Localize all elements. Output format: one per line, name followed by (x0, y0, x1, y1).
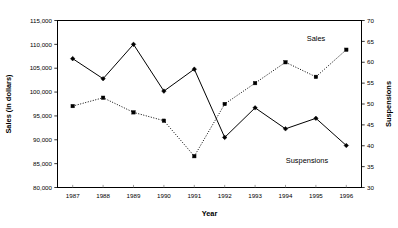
data-point (193, 154, 197, 158)
y-axis-tick-label: 80,000 (33, 184, 52, 191)
x-axis-tick-label: 1991 (187, 192, 201, 199)
data-point (132, 111, 136, 115)
y-axis-title: Sales (in dollars) (4, 74, 13, 134)
data-point (314, 75, 318, 79)
data-point (253, 81, 257, 85)
y-axis-tick-label: 90,000 (33, 136, 52, 143)
y2-axis-tick-label: 50 (367, 100, 374, 107)
y-axis-tick-label: 105,000 (30, 64, 53, 71)
y2-axis-tick-label: 60 (367, 58, 374, 65)
data-point (162, 119, 166, 123)
data-point (101, 96, 105, 100)
y2-axis-tick-label: 40 (367, 142, 374, 149)
y-axis-tick-label: 95,000 (33, 112, 52, 119)
x-axis-tick-label: 1988 (96, 192, 110, 199)
y2-axis-tick-label: 65 (367, 38, 374, 45)
x-axis-tick-label: 1994 (279, 192, 293, 199)
data-point (345, 48, 349, 52)
data-point (223, 102, 227, 106)
y2-axis-tick-label: 45 (367, 121, 374, 128)
x-axis-tick-label: 1987 (66, 192, 80, 199)
x-axis-tick-label: 1992 (218, 192, 232, 199)
x-axis-tick-label: 1990 (157, 192, 171, 199)
data-point (284, 61, 288, 65)
data-point (71, 104, 75, 108)
x-axis-tick-label: 1995 (309, 192, 323, 199)
y2-axis-tick-label: 35 (367, 163, 374, 170)
y-axis-tick-label: 100,000 (30, 88, 53, 95)
y-axis-tick-label: 115,000 (30, 17, 52, 24)
y-axis-tick-label: 85,000 (33, 160, 52, 167)
x-axis-tick-label: 1989 (127, 192, 141, 199)
series-annotation-sales: Sales (307, 34, 326, 43)
y2-axis-tick-label: 70 (367, 17, 374, 24)
y2-axis-tick-label: 55 (367, 79, 374, 86)
x-axis-title: Year (202, 209, 218, 218)
chart-svg: 80,00085,00090,00095,000100,000105,00011… (0, 0, 398, 228)
x-axis-tick-label: 1993 (248, 192, 262, 199)
y2-axis-tick-label: 30 (367, 184, 374, 191)
series-line-sales (73, 44, 347, 145)
y-axis-tick-label: 110,000 (30, 41, 52, 48)
x-axis-tick-label: 1996 (339, 192, 353, 199)
chart-container: 80,00085,00090,00095,000100,000105,00011… (0, 0, 398, 228)
y2-axis-title: Suspensions (384, 81, 393, 127)
series-annotation-suspensions: Suspensions (286, 156, 329, 165)
